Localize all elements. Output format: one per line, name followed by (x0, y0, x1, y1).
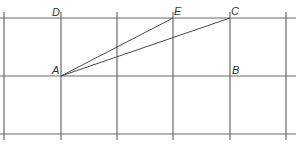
point-label-A: A (51, 64, 59, 76)
grid-diagram: D E C A B (0, 0, 296, 146)
point-label-E: E (174, 5, 182, 17)
point-label-C: C (231, 5, 239, 17)
point-label-D: D (52, 6, 60, 18)
segment-AC (61, 18, 230, 76)
point-label-B: B (232, 64, 239, 76)
